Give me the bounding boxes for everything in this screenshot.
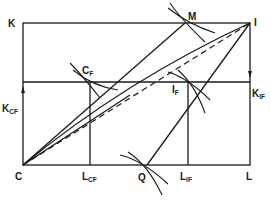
line-c-through-cf [23, 95, 130, 165]
label-K: K [8, 18, 16, 29]
label-IF: IF [172, 84, 179, 96]
label-C: C [15, 171, 22, 182]
label-Q: Q [138, 172, 146, 183]
label-LIF: LIF [180, 171, 192, 183]
label-LCF: LCF [82, 171, 97, 183]
arrow-up-icon [21, 86, 25, 93]
label-I: I [254, 17, 257, 28]
line-c-to-m [23, 23, 185, 165]
label-CF: CF [82, 65, 93, 77]
dashed-diagonal [23, 23, 250, 165]
label-KIF: KIF [252, 88, 265, 100]
label-M: M [188, 11, 196, 22]
label-L: L [246, 171, 252, 182]
line-q-to-i [147, 23, 250, 165]
label-KCF: KCF [2, 103, 18, 115]
arrow-down-icon [248, 71, 252, 78]
edgeworth-box-diagram: K I M C L Q CF IF KCF KIF LCF LIF [0, 0, 271, 207]
